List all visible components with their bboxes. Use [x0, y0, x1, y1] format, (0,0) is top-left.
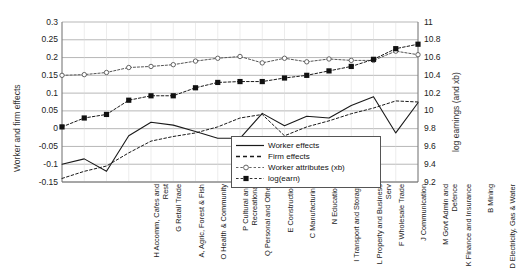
series-marker-filled-square	[371, 57, 376, 62]
series-marker-open-circle	[305, 60, 309, 64]
series-marker-filled-square	[393, 46, 398, 51]
open-circle-icon	[235, 162, 265, 173]
series-marker-filled-square	[326, 68, 331, 73]
y-tick-label-right: 11	[424, 18, 458, 27]
x-tick-label: D Electricity, Gas & Water	[509, 184, 522, 270]
y-tick-label-right: 9.6	[424, 142, 458, 151]
series-marker-filled-square	[415, 42, 420, 47]
y-tick-label-right: 10.8	[424, 35, 458, 44]
series-marker-filled-square	[171, 93, 176, 98]
series-marker-open-circle	[327, 57, 331, 61]
series-marker-filled-square	[237, 79, 242, 84]
legend-label: Worker effects	[268, 141, 319, 150]
chart-legend: Worker effectsFirm effectsWorker attribu…	[231, 136, 381, 188]
y-tick-label-left: -0.1	[22, 160, 58, 169]
series-marker-filled-square	[148, 93, 153, 98]
series-marker-open-circle	[216, 56, 220, 60]
x-tick-label: C Manufacturing	[309, 184, 323, 270]
series-marker-open-circle	[171, 62, 175, 66]
series-marker-open-circle	[104, 70, 108, 74]
series-marker-open-circle	[282, 56, 286, 60]
x-tick-label: M Govt Admin and Defence	[442, 184, 456, 270]
y-tick-label-left: 0.15	[22, 71, 58, 80]
series-marker-filled-square	[193, 85, 198, 90]
series-marker-filled-square	[215, 80, 220, 85]
y-tick-label-left: 0.05	[22, 106, 58, 115]
x-tick-label: Q Personal and Other	[264, 184, 278, 270]
legend-label: Firm effects	[268, 152, 310, 161]
series-marker-filled-square	[126, 98, 131, 103]
legend-item: Worker effects	[235, 140, 376, 151]
series-marker-open-circle	[416, 53, 420, 57]
legend-item: Firm effects	[235, 151, 376, 162]
x-tick-label: N Education	[331, 184, 345, 270]
y-axis-title-left: Worker and firm effects	[12, 84, 22, 172]
x-tick-label: J Communication	[420, 184, 434, 270]
series-marker-filled-square	[304, 73, 309, 78]
y-tick-label-right: 9.4	[424, 160, 458, 169]
y-tick-label-left: 0.2	[22, 53, 58, 62]
legend-label: log(earn)	[268, 174, 300, 183]
y-tick-label-right: 10.4	[424, 71, 458, 80]
y-tick-label-left: 0.3	[22, 18, 58, 27]
series-marker-open-circle	[82, 72, 86, 76]
solid-line-icon	[235, 140, 265, 151]
y-tick-label-left: 0.1	[22, 89, 58, 98]
x-tick-label: G Retail Trade	[175, 184, 189, 270]
series-marker-filled-square	[59, 124, 64, 129]
x-tick-label: I Transport and Storage	[353, 184, 367, 270]
y-tick-label-right: 10.2	[424, 89, 458, 98]
x-tick-label: H Accomm, Cafes and Rest	[153, 184, 167, 270]
x-tick-label: O Health & Community	[220, 184, 234, 270]
dashed-line-icon	[235, 151, 265, 162]
series-marker-open-circle	[60, 73, 64, 77]
x-tick-label: F Wholesale Trade	[398, 184, 412, 270]
filled-square-icon	[235, 173, 265, 184]
series-marker-open-circle	[238, 54, 242, 58]
series-marker-open-circle	[127, 65, 131, 69]
y-tick-label-right: 10	[424, 106, 458, 115]
x-axis-category-labels: H Accomm, Cafes and RestG Retail TradeA,…	[62, 184, 418, 270]
x-tick-label: A, Agric, Forest & Fish	[198, 184, 212, 270]
series-marker-filled-square	[104, 112, 109, 117]
y-tick-label-left: 0.25	[22, 35, 58, 44]
x-tick-label: K Finance and Insurance	[465, 184, 479, 270]
series-marker-filled-square	[282, 75, 287, 80]
legend-item: log(earn)	[235, 173, 376, 184]
series-marker-filled-square	[82, 115, 87, 120]
y-tick-label-left: -0.05	[22, 142, 58, 151]
x-tick-label: E Construction	[287, 184, 301, 270]
legend-item: Worker attributes (xb)	[235, 162, 376, 173]
y-tick-label-right: 10.6	[424, 53, 458, 62]
series-marker-open-circle	[149, 64, 153, 68]
y-tick-label-left: 0	[22, 124, 58, 133]
series-marker-filled-square	[349, 64, 354, 69]
series-marker-open-circle	[349, 58, 353, 62]
series-marker-filled-square	[260, 79, 265, 84]
x-tick-label: L Property and Business Serv	[376, 184, 390, 270]
x-tick-label: B Mining	[487, 184, 501, 270]
y-tick-label-left: -0.15	[22, 178, 58, 187]
series-marker-open-circle	[193, 59, 197, 63]
y-tick-label-right: 9.8	[424, 124, 458, 133]
x-tick-label: P Cultural and Recreational	[242, 184, 256, 270]
legend-label: Worker attributes (xb)	[268, 163, 345, 172]
series-marker-open-circle	[260, 61, 264, 65]
